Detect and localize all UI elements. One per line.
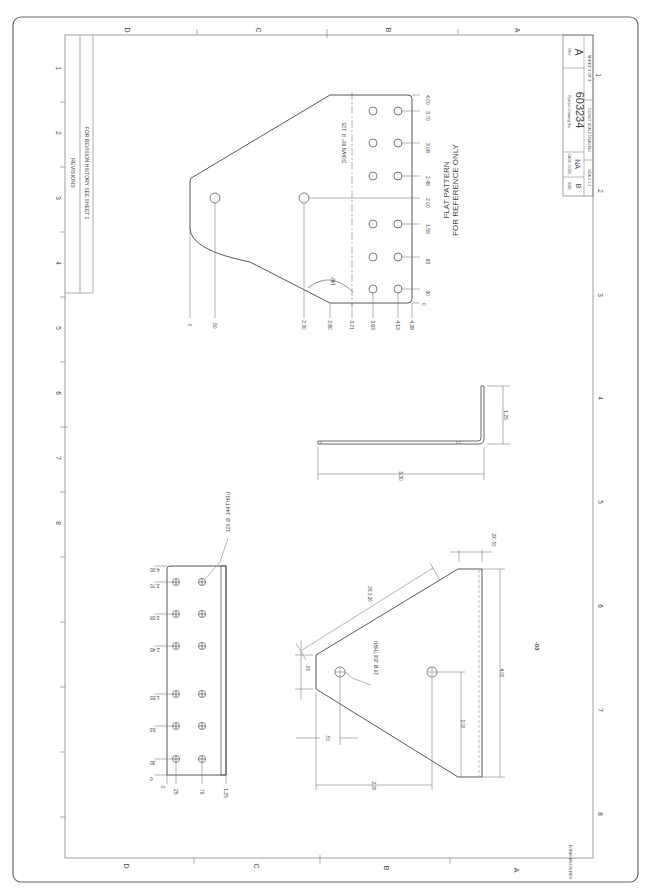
bend-note: DOWN 90° R .125	[341, 122, 347, 163]
svg-text:2.00: 2.00	[425, 198, 431, 208]
zone-number-left-2: 2	[55, 131, 62, 135]
dash-number-label: -03	[534, 642, 540, 651]
front-view-chamfer-dim: 2X .50	[491, 533, 496, 547]
zone-number-left-4: 4	[55, 261, 62, 265]
svg-text:3.63: 3.63	[370, 320, 376, 330]
zone-number-right-4: 4	[597, 396, 604, 400]
scale-value: SCALE 1:1	[587, 169, 591, 186]
svg-text:0: 0	[421, 303, 427, 306]
svg-text:0: 0	[150, 776, 153, 782]
zone-number-right-6: 6	[597, 604, 604, 608]
svg-text:3.70: 3.70	[425, 111, 431, 121]
top-view-ordinates-left: 4.00 3.70 3.08 2.45 1.55 .93 .30 0	[150, 567, 160, 782]
front-view	[295, 550, 505, 790]
zone-number-left-5: 5	[55, 326, 62, 330]
zone-number-right-2: 2	[597, 189, 604, 193]
zone-letter-bottom-c: C	[253, 863, 260, 868]
sheet-outer-frame	[13, 17, 638, 882]
svg-text:.93: .93	[150, 727, 157, 733]
revisions-block: REVISIONS FOR REVISION HISTORY SEE SHEET…	[65, 35, 93, 293]
drawing-number: 603234	[574, 92, 586, 129]
svg-text:.93: .93	[425, 257, 431, 264]
rev-value: A	[573, 49, 584, 56]
zone-number-right-5: 5	[597, 500, 604, 504]
sheet-number: SHEET 3 OF 3	[587, 55, 592, 82]
zone-letter-top-a: A	[514, 28, 521, 33]
zone-number-left-1: 1	[55, 66, 62, 70]
top-view-ordinates-bottom: 0 .25 .75 1.25	[160, 786, 229, 798]
front-view-depth-dim: 2.30	[371, 782, 376, 791]
cage-code-label: CAGE CODE	[567, 153, 571, 175]
front-view-width-dim: 4.00	[499, 669, 504, 678]
flat-pattern-view	[190, 92, 420, 318]
front-view-hole-spacing-dim: 2.00	[460, 720, 465, 729]
svg-text:.25: .25	[173, 788, 179, 795]
bend-angle: 149°	[331, 276, 336, 286]
svg-text:0: 0	[160, 786, 166, 789]
drawing-sheet: D C B A D C B A 1 2 3 4 5 6 7 8 1 2 3 4 …	[0, 0, 651, 895]
zone-number-left-6: 6	[55, 391, 62, 395]
svg-text:4.00: 4.00	[150, 567, 160, 573]
zone-letter-top-d: D	[124, 27, 131, 32]
cage-code-value: NA	[574, 159, 581, 169]
zone-letter-bottom-b: B	[383, 866, 390, 871]
top-view	[155, 538, 228, 784]
svg-text:3.21: 3.21	[349, 320, 355, 330]
front-view-tip-dim: .65	[305, 665, 310, 672]
flat-pattern-ordinates-right: 4.00 3.70 3.08 2.45 2.00 1.55 .93 .30 0	[421, 95, 431, 306]
svg-text:1.25: 1.25	[223, 788, 229, 798]
side-view	[318, 386, 510, 480]
zone-number-left-3: 3	[55, 196, 62, 200]
svg-text:3.08: 3.08	[150, 615, 160, 621]
zone-number-right-8: 8	[597, 812, 604, 816]
zone-letter-top-b: B	[385, 28, 392, 33]
svg-text:3.08: 3.08	[425, 143, 431, 153]
zone-number-right-7: 7	[597, 708, 604, 712]
svg-text:0: 0	[187, 324, 193, 327]
revisions-title: REVISIONS	[70, 158, 76, 188]
form-number: FORM M6209 REV	[568, 845, 573, 880]
zone-number-left-7: 7	[55, 456, 62, 460]
svg-text:2.45: 2.45	[150, 647, 160, 653]
size-value: B	[575, 184, 582, 189]
top-view-hole-callout: 12X Ø .144 THRU	[225, 491, 231, 532]
svg-text:.30: .30	[150, 760, 157, 766]
size-label: SIZE	[567, 182, 571, 190]
flat-pattern-label: FLAT PATTERN	[442, 161, 451, 218]
svg-text:3.70: 3.70	[150, 583, 160, 589]
svg-text:2.80: 2.80	[327, 320, 333, 330]
svg-text:.50: .50	[212, 322, 218, 329]
flat-pattern-outline	[190, 95, 412, 303]
side-view-length-dim: 3.30	[398, 471, 404, 481]
svg-text:2.45: 2.45	[425, 176, 431, 186]
svg-text:4.00: 4.00	[425, 95, 431, 105]
zone-letter-bottom-a: A	[513, 868, 520, 873]
zone-letter-bottom-d: D	[123, 863, 130, 868]
svg-text:4.38: 4.38	[409, 320, 415, 330]
front-view-hole-callout: 2X Ø .206 THRU	[374, 641, 379, 675]
svg-text:4.13: 4.13	[395, 320, 401, 330]
zone-letter-top-c: C	[255, 27, 262, 32]
svg-text:.75: .75	[199, 788, 205, 795]
zone-ticks-bottom	[194, 855, 450, 864]
do-not-scale-note: DO NOT SCALE DRAWING	[587, 108, 591, 152]
revisions-note: FOR REVISION HISTORY SEE SHEET 1	[84, 127, 90, 220]
svg-text:1.55: 1.55	[425, 224, 431, 234]
zone-number-right-1: 1	[595, 73, 602, 77]
zone-number-left-8: 8	[55, 521, 62, 525]
zone-ticks-top	[197, 29, 458, 38]
svg-text:.30: .30	[425, 289, 431, 296]
svg-text:1.55: 1.55	[150, 695, 160, 701]
front-view-hole-offset-dim: .50	[325, 735, 330, 742]
side-view-flange-dim: 1.25	[503, 410, 509, 420]
rev-label: REV	[567, 48, 571, 56]
flat-pattern-sublabel: FOR REFERENCE ONLY	[451, 143, 460, 236]
front-view-slope-dim: 2X 3.26	[367, 586, 372, 602]
flat-pattern-ordinates-bottom: 0 .50 2.30 2.80 3.21 3.63 4.13 4.38	[187, 320, 415, 330]
title-block: SIZE B CAGE CODE NA Ryerson Drawing No. …	[563, 35, 593, 196]
zone-number-right-3: 3	[597, 293, 604, 297]
drawing-number-label: Ryerson Drawing No.	[567, 95, 571, 128]
svg-text:2.30: 2.30	[301, 320, 307, 330]
